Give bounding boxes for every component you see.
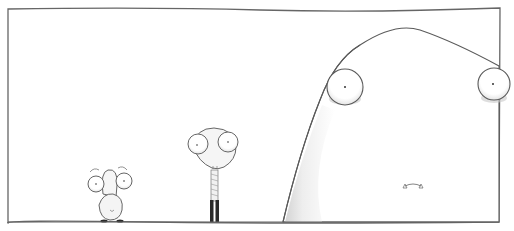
comic-panel [0, 0, 514, 231]
leg-left [210, 200, 214, 222]
leg-right [216, 200, 220, 222]
eye-left [188, 134, 208, 154]
